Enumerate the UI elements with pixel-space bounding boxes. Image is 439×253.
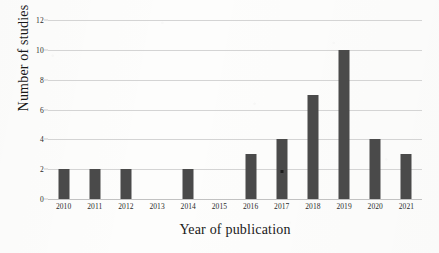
y-axis-tick-label: 12 xyxy=(4,16,44,25)
bar[interactable] xyxy=(339,50,350,199)
bar-slot xyxy=(79,20,110,199)
bar[interactable] xyxy=(58,169,69,199)
bar[interactable] xyxy=(89,169,100,199)
bar[interactable] xyxy=(245,154,256,199)
bar-series xyxy=(48,20,422,199)
gridline xyxy=(48,199,422,200)
bar[interactable] xyxy=(120,169,131,199)
bar-slot xyxy=(235,20,266,199)
bar-slot xyxy=(266,20,297,199)
bar-slot xyxy=(48,20,79,199)
bar-slot xyxy=(297,20,328,199)
bar[interactable] xyxy=(370,139,381,199)
bar-chart-figure: Number of studies Year of publication 02… xyxy=(0,0,439,253)
y-axis-tick-label: 10 xyxy=(4,45,44,54)
y-axis-tick-label: 4 xyxy=(4,135,44,144)
bar-slot xyxy=(173,20,204,199)
scan-speck xyxy=(280,170,283,173)
plot-area xyxy=(48,20,422,199)
y-axis-tick-label: 0 xyxy=(4,195,44,204)
bar[interactable] xyxy=(307,95,318,199)
x-axis-title: Year of publication xyxy=(48,222,422,238)
y-axis-tick-label: 8 xyxy=(4,75,44,84)
bar-slot xyxy=(391,20,422,199)
x-axis-tick-label: 2021 xyxy=(388,202,424,211)
bar-slot xyxy=(142,20,173,199)
y-axis-tick-label: 2 xyxy=(4,165,44,174)
bar-slot xyxy=(360,20,391,199)
bar[interactable] xyxy=(183,169,194,199)
bar-slot xyxy=(110,20,141,199)
y-axis-tick-label: 6 xyxy=(4,105,44,114)
bar-slot xyxy=(204,20,235,199)
bar[interactable] xyxy=(401,154,412,199)
bar-slot xyxy=(329,20,360,199)
